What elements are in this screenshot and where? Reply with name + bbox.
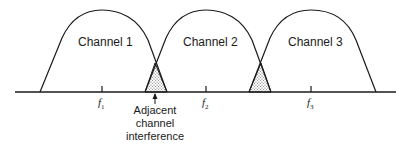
- channel-2-label: Channel 2: [183, 35, 238, 49]
- annotation-line-3: interference: [125, 130, 185, 143]
- annotation-line-1: Adjacent: [125, 104, 185, 117]
- interference-arrow-head: [153, 93, 158, 99]
- interference-annotation: Adjacent channel interference: [125, 104, 185, 143]
- channel-1-curve: [40, 10, 167, 92]
- overlap-region-2-3: [249, 63, 271, 92]
- f2-label: f2: [202, 96, 209, 111]
- channel-3-curve: [249, 10, 376, 92]
- f1-label: f1: [98, 96, 105, 111]
- channel-1-label: Channel 1: [78, 35, 133, 49]
- channel-3-label: Channel 3: [288, 35, 343, 49]
- channel-2-curve: [145, 10, 271, 92]
- f3-label: f3: [307, 96, 314, 111]
- overlap-region-1-2: [145, 63, 167, 92]
- annotation-line-2: channel: [125, 117, 185, 130]
- channel-spectrum-diagram: [0, 0, 406, 149]
